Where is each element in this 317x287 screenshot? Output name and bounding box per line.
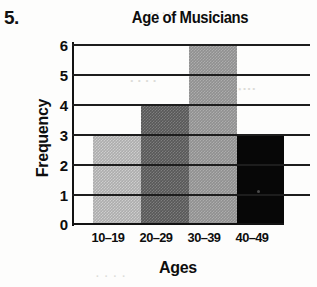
x-axis-label: Ages (78, 258, 277, 278)
y-tick-1: 1 (46, 188, 68, 203)
y-tick-4: 4 (46, 98, 68, 113)
gridline-5 (72, 74, 310, 76)
x-axis-line (72, 223, 284, 225)
bar-10-19 (93, 134, 141, 224)
chart-title: Age of Musicians (78, 9, 301, 27)
y-tick-3: 3 (46, 128, 68, 143)
y-tick-2: 2 (46, 158, 68, 173)
figure-container: .... .... .... .... 5. Age of Musicians … (0, 0, 317, 287)
y-tick-6: 6 (46, 38, 68, 53)
question-number: 5. (4, 7, 19, 29)
gridline-6 (72, 44, 310, 46)
gridline-3 (72, 134, 310, 136)
plot-area (72, 44, 310, 224)
scan-speck (257, 190, 260, 193)
gridline-2 (72, 164, 310, 166)
y-tick-0: 0 (46, 217, 68, 232)
x-tick-40-49: 40–49 (228, 230, 276, 245)
x-tick-20-29: 20–29 (132, 230, 180, 245)
y-tick-5: 5 (46, 68, 68, 83)
x-tick-10-19: 10–19 (84, 230, 132, 245)
bar-40-49 (237, 134, 284, 224)
gridline-4 (72, 104, 310, 106)
gridline-1 (72, 194, 310, 196)
x-tick-30-39: 30–39 (180, 230, 228, 245)
